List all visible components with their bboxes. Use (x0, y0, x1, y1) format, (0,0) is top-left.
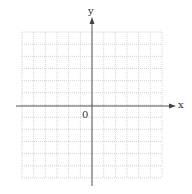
x-axis-label: x (178, 100, 184, 110)
x-axis-arrow-icon (169, 104, 176, 109)
coordinate-plane (0, 0, 192, 194)
y-axis-label: y (88, 6, 94, 16)
y-axis-arrow-icon (90, 17, 95, 24)
origin-label: 0 (82, 110, 88, 120)
